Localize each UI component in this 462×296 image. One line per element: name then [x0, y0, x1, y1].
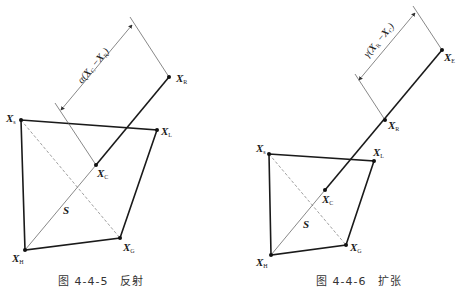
point-xg [118, 236, 122, 240]
label-xh: XH [11, 252, 24, 265]
point-xl [372, 159, 376, 163]
label-xe: XE [443, 51, 455, 64]
label-xs: Xs [5, 112, 16, 125]
point-xc [323, 188, 327, 192]
expansion-figure: γ(XR −XC) Xs XL XE XR XC XG XH S 图 4-4-6… [255, 6, 455, 288]
point-xh [269, 253, 273, 257]
point-xh [23, 248, 27, 252]
label-xs: Xs [255, 142, 266, 155]
label-xc: XC [96, 167, 108, 180]
extension-line-c [55, 103, 96, 165]
region-label-s: S [63, 204, 69, 216]
point-xs [19, 118, 23, 122]
region-label-s: S [303, 218, 309, 230]
point-xr [167, 75, 171, 79]
label-xc: XC [321, 193, 333, 206]
reflection-ray [96, 77, 169, 165]
label-xh: XH [255, 256, 268, 269]
extension-line-e [413, 6, 442, 50]
dimension-label: α(XC −XR) [75, 45, 112, 86]
point-xr [383, 118, 387, 122]
reflection-figure: α(XC −XR) Xs XL XR XC XG XH S 图 4-4-5 反射 [5, 17, 187, 288]
label-xg: XG [122, 241, 135, 254]
extension-line-r [130, 17, 169, 77]
label-xl: XL [372, 146, 384, 159]
centroid-line [271, 190, 325, 255]
dimension-label: γ(XR −XC) [361, 20, 397, 60]
caption-expansion: 图 4-4-6 扩张 [316, 274, 402, 288]
label-xr: XR [175, 72, 187, 85]
point-xg [344, 243, 348, 247]
label-xg: XG [349, 241, 362, 254]
label-xl: XL [160, 125, 172, 138]
point-xs [267, 152, 271, 156]
point-xl [155, 128, 159, 132]
extension-line-r [355, 74, 385, 120]
label-xr: XR [387, 119, 399, 132]
centroid-line [25, 165, 96, 250]
caption-reflection: 图 4-4-5 反射 [58, 274, 144, 288]
diagonal-dashed [269, 154, 346, 245]
simplex-diagrams: α(XC −XR) Xs XL XR XC XG XH S 图 4-4-5 反射… [0, 0, 462, 296]
